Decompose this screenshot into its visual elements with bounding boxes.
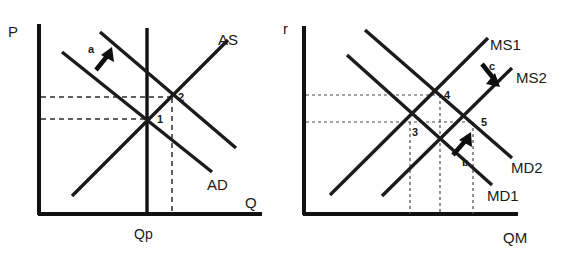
md1-curve-label: MD1 — [487, 187, 519, 204]
left-y-axis-label: P — [8, 23, 18, 40]
as-curve-label: AS — [218, 31, 238, 48]
ms1-curve-label: MS1 — [490, 36, 521, 53]
ms2-curve-label: MS2 — [516, 69, 547, 86]
point-label-4: 4 — [444, 89, 451, 101]
shift-arrow-a — [96, 47, 114, 70]
point-label-5: 5 — [481, 116, 487, 128]
point-label-1: 1 — [157, 113, 163, 125]
right-x-axis-label: QM — [503, 229, 527, 246]
point-label-3: 3 — [412, 126, 418, 138]
shift-label-c: c — [489, 60, 495, 72]
diagram-canvas: P Q AS AD a 1 2 Qp — [0, 0, 563, 258]
left-panel: P Q AS AD a 1 2 Qp — [8, 23, 262, 242]
shift-arrow-b — [453, 132, 472, 155]
ad-curve-label: AD — [207, 176, 228, 193]
ad1-curve — [62, 52, 212, 172]
right-panel: r QM MS1 MS2 MD2 MD1 b c 3 4 5 — [283, 20, 547, 246]
md2-curve-label: MD2 — [511, 159, 543, 176]
economics-diagram: P Q AS AD a 1 2 Qp — [0, 0, 563, 258]
ad2-curve — [100, 32, 236, 148]
qp-tick-label: Qp — [134, 226, 153, 242]
left-x-axis-label: Q — [245, 194, 257, 211]
point-label-2: 2 — [178, 91, 184, 103]
shift-label-b: b — [462, 156, 469, 168]
shift-label-a: a — [88, 43, 95, 55]
ms2-curve — [382, 68, 512, 196]
right-y-axis-label: r — [283, 20, 288, 37]
as-curve — [72, 40, 228, 196]
